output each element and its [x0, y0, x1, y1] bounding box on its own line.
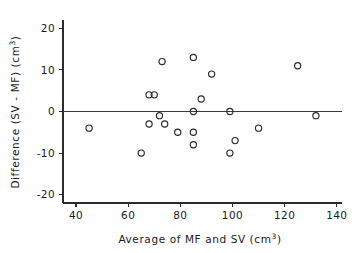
data-point [138, 150, 144, 156]
data-point [190, 54, 196, 60]
x-tick-label: 140 [326, 209, 347, 221]
y-axis-title-text: Difference (SV - MF) (cm [9, 46, 21, 189]
data-point [86, 125, 92, 131]
data-point [162, 121, 168, 127]
y-tick-label: 0 [48, 105, 55, 117]
y-tick-label: 20 [41, 22, 55, 34]
x-axis-title-text: Average of MF and SV (cm [118, 233, 271, 245]
x-tick-label: 60 [121, 209, 135, 221]
data-point [175, 129, 181, 135]
data-point [198, 96, 204, 102]
data-point [190, 142, 196, 148]
data-points-group [86, 54, 319, 156]
x-axis-title-tail: ) [277, 233, 282, 245]
x-axis-title: Average of MF and SV (cm3) [118, 232, 281, 245]
x-tick-label: 100 [222, 209, 243, 221]
data-point [227, 150, 233, 156]
data-point [255, 125, 261, 131]
x-tick-label: 40 [69, 209, 83, 221]
data-point [159, 58, 165, 64]
data-point [190, 129, 196, 135]
x-tick-label: 120 [274, 209, 295, 221]
svg-text:Difference (SV - MF) (cm3): Difference (SV - MF) (cm3) [8, 35, 21, 188]
x-axis-tick-labels: 406080100120140 [69, 209, 347, 221]
y-tick-label: -20 [37, 188, 55, 200]
y-tick-label: -10 [37, 147, 55, 159]
x-tick-label: 80 [173, 209, 187, 221]
bland-altman-chart: 406080100120140 -20-1001020 Average of M… [0, 0, 354, 253]
y-axis-title: Difference (SV - MF) (cm3) [8, 35, 21, 188]
data-point [146, 121, 152, 127]
scatter-plot-svg: 406080100120140 -20-1001020 Average of M… [0, 0, 354, 253]
data-point [209, 71, 215, 77]
y-axis-tick-labels: -20-1001020 [37, 22, 55, 200]
data-point [156, 113, 162, 119]
tick-marks-group [59, 28, 337, 207]
data-point [313, 113, 319, 119]
svg-text:Average of MF and SV (cm3): Average of MF and SV (cm3) [118, 232, 281, 245]
y-tick-label: 10 [41, 64, 55, 76]
data-point [295, 63, 301, 69]
y-axis-title-tail: ) [9, 35, 21, 40]
data-point [232, 138, 238, 144]
